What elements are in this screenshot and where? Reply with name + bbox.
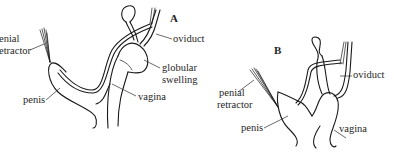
- panel-a-label-penial-retractor-line1: enial: [0, 33, 19, 44]
- panel-b-label-penial-retractor-line1: penial: [219, 87, 245, 98]
- panel-b-label-penis: penis: [241, 122, 263, 133]
- panel-b-label-vagina: vagina: [339, 123, 367, 134]
- panel-a-label-penis: penis: [23, 94, 45, 105]
- panel-a-label-vagina: vagina: [138, 91, 166, 102]
- panel-b-label-oviduct: oviduct: [353, 69, 385, 80]
- panel-a-drawing: [30, 6, 172, 128]
- panel-a-label-globular-swelling-line1: globular: [162, 62, 197, 73]
- panel-a-label-globular-swelling-line2: swelling: [162, 74, 198, 85]
- panel-b-oviduct: [334, 42, 348, 96]
- panel-b-label-penial-retractor-line2: retractor: [217, 99, 253, 110]
- panel-b-penial-retractor-fibres: [250, 68, 278, 107]
- panel-b-penis-outline: [277, 92, 297, 146]
- panel-a-penis-outline: [49, 63, 97, 128]
- panel-a-label-penial-retractor-line2: etractor: [0, 45, 31, 56]
- panel-b-letter: B: [274, 44, 281, 56]
- panel-a-label-oviduct: oviduct: [173, 33, 205, 44]
- panel-a-spermatheca-bulb: [122, 6, 135, 22]
- panel-a-letter: A: [170, 12, 178, 24]
- panel-a-globular-swelling: [118, 43, 148, 73]
- panel-b-vagina-outline: [312, 93, 338, 147]
